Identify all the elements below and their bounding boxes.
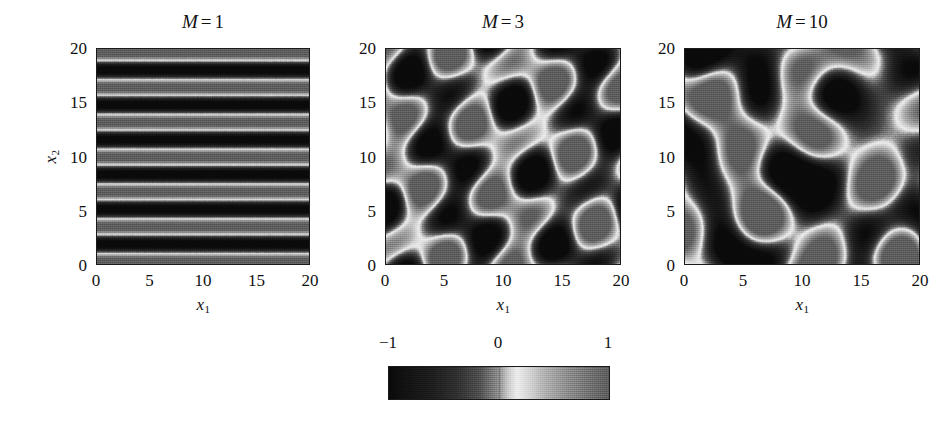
panel-title-m10: M=10 — [684, 12, 920, 31]
xtick-0-m3: 0 — [381, 272, 390, 289]
xtick-5-m3: 5 — [440, 272, 449, 289]
y-axis-label-m1: x2 — [42, 150, 59, 163]
colorbar-label-max: 1 — [604, 334, 613, 351]
panel-title-symbol-m3: M — [482, 11, 498, 32]
xtick-10-m10: 10 — [794, 272, 811, 289]
ytick-20-m10: 20 — [658, 40, 675, 57]
xtick-5-m1: 5 — [145, 272, 154, 289]
xtick-0-m10: 0 — [680, 272, 689, 289]
xtick-15-m10: 15 — [853, 272, 870, 289]
x-axis-label-sub-m10: 1 — [804, 303, 810, 315]
ytick-0-m10: 0 — [667, 257, 676, 274]
x-axis-label-m3: x1 — [496, 296, 509, 313]
panel-title-value-m10: 10 — [809, 11, 828, 32]
panel-title-eq-m3: = — [498, 11, 515, 32]
panel-title-m3: M=3 — [385, 12, 621, 31]
colorbar-group: −1 0 1 — [388, 334, 608, 400]
panel-title-symbol-m1: M — [182, 11, 198, 32]
ytick-10-m10: 10 — [658, 148, 675, 165]
x-axis-label-m10: x1 — [795, 296, 808, 313]
xtick-20-m3: 20 — [613, 272, 630, 289]
noise-texture-m1 — [96, 48, 310, 265]
colorbar-label-min: −1 — [379, 334, 397, 351]
panel-title-value-m1: 1 — [215, 11, 225, 32]
x-axis-label-sub-m1: 1 — [205, 303, 211, 315]
xtick-20-m1: 20 — [302, 272, 319, 289]
ytick-20-m3: 20 — [359, 40, 376, 57]
plot-area-m3[interactable] — [385, 48, 621, 265]
panel-title-value-m3: 3 — [515, 11, 525, 32]
ytick-10-m1: 10 — [70, 148, 87, 165]
ytick-15-m10: 15 — [658, 94, 675, 111]
ytick-5-m10: 5 — [667, 202, 676, 219]
heatmap-panel-m10: M=10 0 5 10 15 20 0 5 10 15 20 x1 — [684, 48, 920, 265]
plot-area-m10[interactable] — [684, 48, 920, 265]
heatmap-panel-m3: M=3 0 5 10 15 20 0 5 10 15 20 x1 — [385, 48, 621, 265]
xtick-10-m3: 10 — [495, 272, 512, 289]
panel-title-symbol-m10: M — [776, 11, 792, 32]
xtick-10-m1: 10 — [195, 272, 212, 289]
xtick-20-m10: 20 — [912, 272, 929, 289]
ytick-15-m1: 15 — [70, 94, 87, 111]
xtick-15-m3: 15 — [554, 272, 571, 289]
panel-title-eq-m10: = — [792, 11, 809, 32]
heatmap-panel-m1: M=1 0 5 10 15 20 0 5 10 15 20 x1 x2 — [96, 48, 310, 265]
x-axis-label-sub-m3: 1 — [505, 303, 511, 315]
ytick-15-m3: 15 — [359, 94, 376, 111]
y-axis-label-sub-m1: 2 — [49, 149, 61, 155]
figure-canvas: M=1 0 5 10 15 20 0 5 10 15 20 x1 x2 M=3 … — [0, 0, 947, 421]
plot-area-m1[interactable] — [96, 48, 310, 265]
noise-texture-m10 — [684, 48, 920, 265]
ytick-0-m3: 0 — [368, 257, 377, 274]
panel-title-eq-m1: = — [198, 11, 215, 32]
ytick-20-m1: 20 — [70, 40, 87, 57]
ytick-10-m3: 10 — [359, 148, 376, 165]
colorbar[interactable] — [388, 366, 610, 400]
colorbar-label-mid: 0 — [494, 334, 503, 351]
colorbar-noise-texture — [388, 366, 610, 400]
ytick-0-m1: 0 — [79, 257, 88, 274]
panel-title-m1: M=1 — [96, 12, 310, 31]
xtick-15-m1: 15 — [248, 272, 265, 289]
x-axis-label-m1: x1 — [196, 296, 209, 313]
xtick-0-m1: 0 — [92, 272, 101, 289]
noise-texture-m3 — [385, 48, 621, 265]
ytick-5-m1: 5 — [79, 202, 88, 219]
ytick-5-m3: 5 — [368, 202, 377, 219]
xtick-5-m10: 5 — [739, 272, 748, 289]
